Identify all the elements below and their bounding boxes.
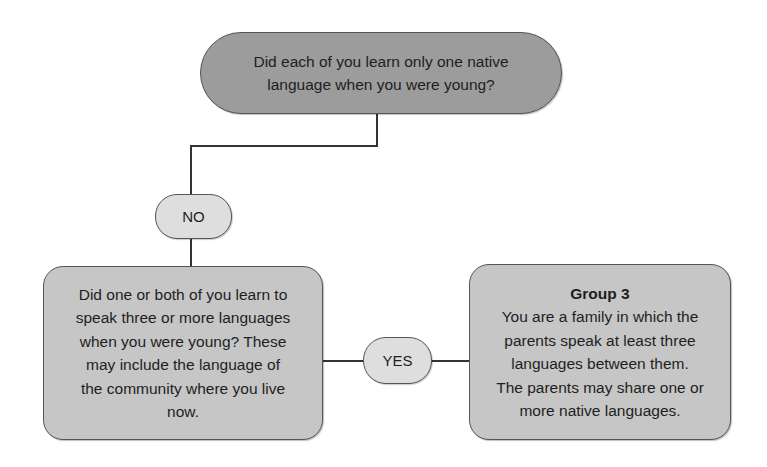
yes-label: YES	[382, 352, 412, 369]
result-node-group-3: Group 3 You are a family in which the pa…	[469, 264, 731, 440]
connector-left-box-to-yes	[323, 360, 363, 362]
connector-to-no	[190, 145, 192, 194]
connector-top-down	[376, 114, 378, 147]
question-line-2: speak three or more languages	[76, 306, 291, 330]
connector-top-horizontal	[190, 145, 378, 147]
edge-label-yes: YES	[363, 337, 432, 384]
result-line-4: The parents may share one or	[496, 376, 704, 400]
result-line-5: more native languages.	[519, 399, 680, 423]
question-line-6: now.	[167, 400, 199, 424]
connector-yes-to-right-box	[432, 360, 469, 362]
result-line-1: You are a family in which the	[502, 305, 699, 329]
connector-no-to-left-box	[190, 239, 192, 266]
result-title: Group 3	[570, 282, 629, 306]
result-line-3: languages between them.	[511, 352, 689, 376]
question-line-5: the community where you live	[81, 377, 285, 401]
question-line-3: when you were young? These	[80, 330, 287, 354]
edge-label-no: NO	[155, 194, 232, 239]
question-line-1: Did each of you learn only one native	[253, 50, 508, 73]
question-node-native-language: Did each of you learn only one native la…	[200, 32, 562, 114]
question-line-2: language when you were young?	[267, 73, 495, 96]
question-line-4: may include the language of	[86, 353, 280, 377]
question-node-three-languages: Did one or both of you learn to speak th…	[43, 266, 323, 440]
result-line-2: parents speak at least three	[504, 329, 695, 353]
no-label: NO	[182, 208, 205, 225]
question-line-1: Did one or both of you learn to	[79, 283, 288, 307]
